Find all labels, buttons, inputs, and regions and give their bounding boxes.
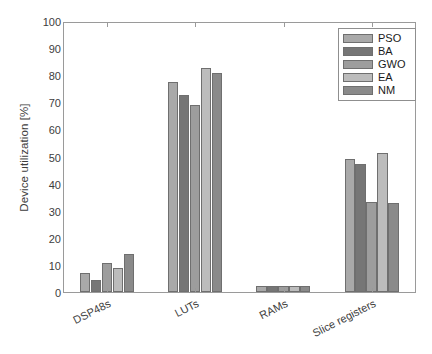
legend-item-ea[interactable]: EA xyxy=(343,71,411,84)
bar-nm-slice-registers xyxy=(388,203,398,292)
legend-item-nm[interactable]: NM xyxy=(343,84,411,97)
legend-item-gwo[interactable]: GWO xyxy=(343,58,411,71)
y-tick-label: 20 xyxy=(21,233,61,245)
y-tick-label: 40 xyxy=(21,179,61,191)
legend-swatch-ea xyxy=(343,73,373,82)
bar-nm-rams xyxy=(300,286,310,292)
y-tick-label: 30 xyxy=(21,206,61,218)
bar-nm-luts xyxy=(212,73,222,292)
x-tick-mark xyxy=(372,22,373,27)
bar-gwo-luts xyxy=(190,105,200,292)
legend-swatch-ba xyxy=(343,47,373,56)
legend-item-ba[interactable]: BA xyxy=(343,45,411,58)
x-tick-mark xyxy=(107,22,108,27)
chart-figure: Device utilization [%] 01020304050607080… xyxy=(0,0,432,354)
bar-ea-dsp48s xyxy=(113,268,123,292)
legend-label: GWO xyxy=(378,59,406,70)
bar-ba-dsp48s xyxy=(91,280,101,292)
x-tick-mark xyxy=(195,288,196,293)
bar-pso-luts xyxy=(168,82,178,292)
legend-swatch-nm xyxy=(343,86,373,95)
x-tick-mark xyxy=(107,288,108,293)
bar-gwo-slice-registers xyxy=(366,202,376,292)
legend-swatch-gwo xyxy=(343,60,373,69)
bar-pso-dsp48s xyxy=(80,273,90,293)
legend-label: BA xyxy=(378,46,393,57)
legend-label: PSO xyxy=(378,33,401,44)
y-tick-label: 0 xyxy=(21,287,61,299)
y-tick-label: 100 xyxy=(21,16,61,28)
y-tick-label: 60 xyxy=(21,124,61,136)
chart-legend: PSOBAGWOEANM xyxy=(338,28,416,101)
x-tick-mark xyxy=(372,288,373,293)
bar-ea-rams xyxy=(289,286,299,292)
bar-nm-dsp48s xyxy=(124,254,134,292)
bar-ea-luts xyxy=(201,68,211,292)
bar-ba-luts xyxy=(179,95,189,292)
y-tick-label: 80 xyxy=(21,70,61,82)
bar-pso-rams xyxy=(256,286,266,292)
y-tick-label: 70 xyxy=(21,97,61,109)
legend-label: EA xyxy=(378,72,393,83)
bar-ea-slice-registers xyxy=(377,153,387,292)
x-tick-label: DSP48s xyxy=(0,297,112,354)
legend-label: NM xyxy=(378,85,395,96)
y-tick-label: 50 xyxy=(21,152,61,164)
legend-item-pso[interactable]: PSO xyxy=(343,32,411,45)
bar-ba-rams xyxy=(267,286,277,292)
bar-pso-slice-registers xyxy=(345,159,355,292)
y-tick-label: 10 xyxy=(21,260,61,272)
x-tick-mark xyxy=(195,22,196,27)
x-tick-mark xyxy=(284,288,285,293)
legend-swatch-pso xyxy=(343,34,373,43)
bar-ba-slice-registers xyxy=(355,164,365,292)
y-tick-label: 90 xyxy=(21,43,61,55)
x-tick-mark xyxy=(284,22,285,27)
